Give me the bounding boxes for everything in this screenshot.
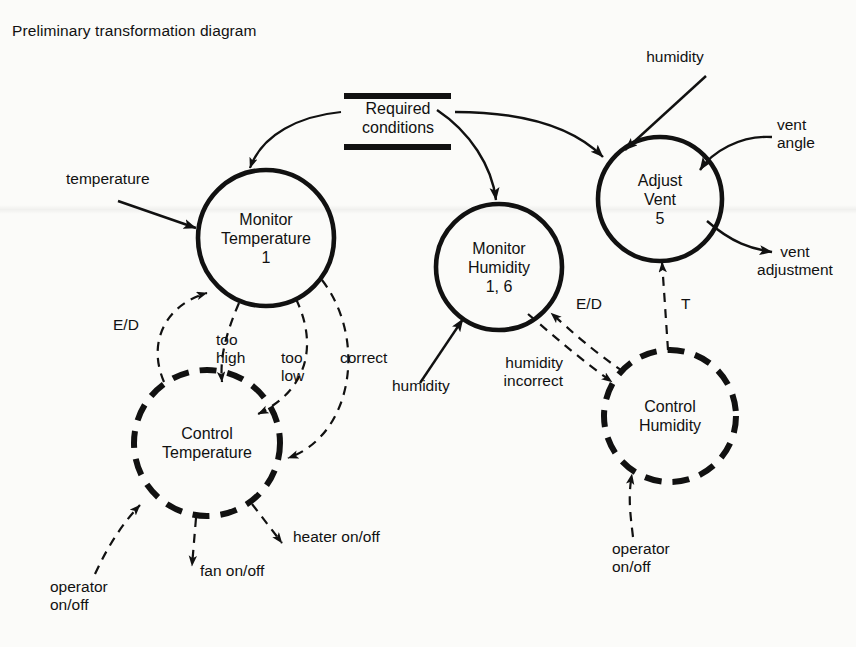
flow-label-too-high: too high: [216, 331, 245, 367]
store-required-conditions: Required conditions: [362, 99, 434, 137]
monitor-temperature-line-1: Monitor: [221, 210, 311, 229]
adjust-vent-line-1: Adjust: [638, 171, 682, 190]
flow-label-vent-angle: vent angle: [777, 116, 815, 152]
monitor-humidity-line-1: Monitor: [468, 239, 530, 258]
flow-label-temperature: temperature: [66, 170, 150, 188]
flow-operator-on-off-right: [630, 474, 633, 537]
flow-label-humidity-vent: humidity: [646, 48, 704, 66]
operator-right-line-2: on/off: [612, 558, 670, 576]
flow-label-t: T: [681, 295, 690, 313]
monitor-humidity-number: 1, 6: [468, 277, 530, 296]
monitor-temperature-line-2: Temperature: [221, 229, 311, 248]
flow-heater-on-off: [252, 504, 282, 543]
flow-humidity-in-monitor: [420, 319, 463, 383]
flow-label-correct: correct: [340, 349, 387, 367]
flow-required-to-monitor-temperature: [250, 112, 341, 168]
vent-angle-line-2: angle: [777, 134, 815, 152]
store-line-1: Required: [362, 99, 434, 118]
flow-label-operator-on-off-left: operator on/off: [50, 578, 108, 614]
label-monitor-humidity: Monitor Humidity 1, 6: [468, 239, 530, 296]
humidity-incorrect-line-2: incorrect: [504, 372, 563, 390]
vent-adjustment-line-2: adjustment: [757, 261, 833, 279]
label-control-temperature: Control Temperature: [162, 424, 252, 462]
label-control-humidity: Control Humidity: [639, 397, 701, 435]
flow-label-humidity-incorrect: humidity incorrect: [504, 354, 563, 390]
flow-required-to-monitor-humidity: [437, 110, 496, 200]
control-temperature-line-2: Temperature: [162, 443, 252, 462]
control-humidity-line-2: Humidity: [639, 416, 701, 435]
too-high-line-2: high: [216, 349, 245, 367]
flow-temperature-in: [118, 201, 196, 228]
store-line-2: conditions: [362, 118, 434, 137]
adjust-vent-number: 5: [638, 209, 682, 228]
adjust-vent-line-2: Vent: [638, 190, 682, 209]
too-low-line-2: low: [281, 367, 304, 385]
flow-fan-on-off: [192, 518, 196, 566]
operator-left-line-2: on/off: [50, 596, 108, 614]
flow-label-humidity-monitor: humidity: [392, 377, 450, 395]
flow-label-heater-on-off: heater on/off: [293, 528, 380, 546]
operator-left-line-1: operator: [50, 578, 108, 596]
flow-label-too-low: too low: [281, 349, 304, 385]
monitor-humidity-line-2: Humidity: [468, 258, 530, 277]
flow-label-ed-humidity: E/D: [576, 295, 602, 313]
label-adjust-vent: Adjust Vent 5: [638, 171, 682, 228]
flow-label-ed-temperature: E/D: [113, 316, 139, 334]
flow-operator-on-off-left: [95, 505, 140, 574]
flow-t: [662, 262, 668, 350]
flow-label-fan-on-off: fan on/off: [200, 562, 264, 580]
vent-angle-line-1: vent: [777, 116, 815, 134]
too-low-line-1: too: [281, 349, 304, 367]
flow-label-operator-on-off-right: operator on/off: [612, 540, 670, 576]
monitor-temperature-number: 1: [221, 248, 311, 267]
control-humidity-line-1: Control: [639, 397, 701, 416]
diagram-page: Preliminary transformation diagram: [0, 0, 856, 647]
control-temperature-line-1: Control: [162, 424, 252, 443]
vent-adjustment-line-1: vent: [757, 243, 833, 261]
label-monitor-temperature: Monitor Temperature 1: [221, 210, 311, 267]
humidity-incorrect-line-1: humidity: [504, 354, 563, 372]
too-high-line-1: too: [216, 331, 245, 349]
operator-right-line-1: operator: [612, 540, 670, 558]
flow-label-vent-adjustment: vent adjustment: [757, 243, 833, 279]
